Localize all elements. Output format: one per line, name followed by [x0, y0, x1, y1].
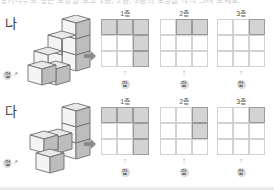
layer-group-na-2: 2층 ↑ 앞 [156, 9, 212, 101]
worksheet-page: 쌓기나무로 쌓은 모양을 보고 1층, 2층, 3층의 모양을 각각 그려 보세… [0, 0, 274, 190]
front-arrow-icon: ↗ [13, 70, 18, 77]
grid-cell-empty[interactable] [176, 139, 192, 155]
up-arrow-icon: ↑ [97, 69, 153, 77]
grid-cell-empty[interactable] [233, 107, 249, 123]
layer-grid[interactable] [217, 19, 265, 67]
grid-cell-empty[interactable] [160, 123, 176, 139]
front-marker-solid-na: 앞 ↗ [3, 71, 18, 80]
layer-grid[interactable] [160, 19, 208, 67]
grid-cell-filled[interactable] [133, 139, 149, 155]
up-arrow-icon: ↑ [97, 157, 153, 165]
layer-label: 3층 [213, 97, 269, 106]
grid-cell-empty[interactable] [192, 35, 208, 51]
grid-cell-empty[interactable] [176, 107, 192, 123]
front-label: 앞 [237, 80, 246, 89]
front-marker-grid: ↑ 앞 [213, 69, 269, 89]
grid-cell-empty[interactable] [160, 51, 176, 67]
grid-cell-empty[interactable] [117, 139, 133, 155]
layer-group-da-2: 2층 ↑ 앞 [156, 97, 212, 189]
grid-cell-filled[interactable] [133, 19, 149, 35]
layer-group-da-3: 3층 ↑ 앞 [213, 97, 269, 189]
grid-cell-filled[interactable] [117, 19, 133, 35]
layer-grid[interactable] [101, 19, 149, 67]
front-label: 앞 [3, 159, 12, 168]
grid-cell-filled[interactable] [101, 107, 117, 123]
instruction-text-clipped: 쌓기나무로 쌓은 모양을 보고 1층, 2층, 3층의 모양을 각각 그려 보세… [0, 0, 274, 9]
front-label: 앞 [121, 168, 130, 177]
layer-grid[interactable] [160, 107, 208, 155]
isometric-solid-na [18, 15, 94, 89]
row-label-na: 나 [5, 17, 17, 30]
grid-cell-filled[interactable] [133, 35, 149, 51]
grid-cell-empty[interactable] [160, 35, 176, 51]
grid-cell-empty[interactable] [217, 35, 233, 51]
up-arrow-icon: ↑ [156, 69, 212, 77]
grid-cell-filled[interactable] [101, 19, 117, 35]
grid-cell-empty[interactable] [217, 51, 233, 67]
grid-cell-filled[interactable] [133, 51, 149, 67]
grid-cell-empty[interactable] [117, 51, 133, 67]
front-label: 앞 [180, 80, 189, 89]
grid-cell-filled[interactable] [249, 107, 265, 123]
layer-grid[interactable] [101, 107, 149, 155]
front-marker-grid: ↑ 앞 [156, 157, 212, 177]
problem-row-da: 다 [0, 97, 274, 189]
layer-group-na-3: 3층 ↑ 앞 [213, 9, 269, 101]
solid-svg-da [18, 103, 94, 177]
grid-cell-empty[interactable] [176, 123, 192, 139]
grid-cell-empty[interactable] [117, 35, 133, 51]
grid-cell-filled[interactable] [192, 123, 208, 139]
layer-group-na-1: 1층 ↑ 앞 [97, 9, 153, 101]
layer-group-da-1: 1층 ↑ 앞 [97, 97, 153, 189]
layer-label: 1층 [97, 97, 153, 106]
front-label: 앞 [121, 80, 130, 89]
grid-cell-empty[interactable] [249, 139, 265, 155]
grid-cell-empty[interactable] [176, 51, 192, 67]
front-label: 앞 [3, 71, 12, 80]
front-label: 앞 [237, 168, 246, 177]
grid-cell-empty[interactable] [217, 123, 233, 139]
grid-cell-empty[interactable] [101, 51, 117, 67]
grid-cell-empty[interactable] [233, 35, 249, 51]
front-marker-grid: ↑ 앞 [97, 69, 153, 89]
grid-cell-empty[interactable] [233, 139, 249, 155]
transform-arrow-da [84, 135, 96, 153]
grid-cell-empty[interactable] [233, 51, 249, 67]
grid-cell-filled[interactable] [117, 107, 133, 123]
problem-row-na: 나 [0, 9, 274, 101]
grid-cell-empty[interactable] [249, 35, 265, 51]
grid-cell-empty[interactable] [217, 19, 233, 35]
right-arrow-icon [84, 139, 96, 149]
grid-cell-empty[interactable] [249, 51, 265, 67]
grid-cell-empty[interactable] [192, 51, 208, 67]
row-label-da: 다 [5, 105, 17, 118]
grid-cell-empty[interactable] [117, 123, 133, 139]
grid-cell-filled[interactable] [176, 19, 192, 35]
grid-cell-empty[interactable] [217, 139, 233, 155]
grid-cell-empty[interactable] [233, 19, 249, 35]
front-arrow-icon: ↗ [13, 158, 18, 165]
right-arrow-icon [84, 51, 96, 61]
grid-cell-empty[interactable] [192, 139, 208, 155]
grid-cell-filled[interactable] [133, 123, 149, 139]
grid-cell-empty[interactable] [217, 107, 233, 123]
grid-cell-empty[interactable] [101, 139, 117, 155]
layer-label: 2층 [156, 97, 212, 106]
grid-cell-empty[interactable] [101, 123, 117, 139]
grid-cell-empty[interactable] [249, 123, 265, 139]
grid-cell-filled[interactable] [133, 107, 149, 123]
grid-cell-empty[interactable] [176, 35, 192, 51]
grid-cell-empty[interactable] [160, 107, 176, 123]
solid-svg-na [18, 15, 94, 89]
front-marker-grid: ↑ 앞 [213, 157, 269, 177]
layer-grid[interactable] [217, 107, 265, 155]
grid-cell-filled[interactable] [192, 19, 208, 35]
grid-cell-empty[interactable] [160, 139, 176, 155]
grid-cell-filled[interactable] [192, 107, 208, 123]
grid-cell-empty[interactable] [160, 19, 176, 35]
up-arrow-icon: ↑ [213, 69, 269, 77]
grid-cell-filled[interactable] [249, 19, 265, 35]
grid-cell-empty[interactable] [233, 123, 249, 139]
grid-cell-empty[interactable] [101, 35, 117, 51]
up-arrow-icon: ↑ [213, 157, 269, 165]
